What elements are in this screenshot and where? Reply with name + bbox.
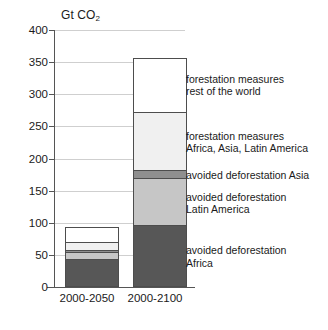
x-tick-label-1: 2000-2100 [104, 292, 206, 304]
bar-segment-avoided-deforestation-africa[interactable] [134, 226, 186, 287]
annotation-line-1: avoided deforestation [186, 191, 286, 204]
annotation-line-1: forestation measures [186, 73, 284, 86]
y-tick-label-150: 150 [0, 185, 55, 197]
annotation-line-2: Africa [186, 257, 286, 270]
bar-segment-avoided-deforestation-asia[interactable] [134, 171, 186, 179]
y-tick-label-300: 300 [0, 88, 55, 100]
y-tick-label-100: 100 [0, 217, 55, 229]
annotation-line-2: rest of the world [186, 85, 284, 98]
x-axis-line [47, 287, 195, 288]
y-tick-label-350: 350 [0, 56, 55, 68]
y-tick-mark-0 [49, 287, 55, 288]
annotation-avoided-deforestation-asia: avoided deforestation Asia [186, 169, 309, 182]
bar-segment-avoided-deforestation-latin-america[interactable] [134, 179, 186, 225]
y-tick-label-400: 400 [0, 24, 55, 36]
bar-segment-forestation-measures-rest-of-the-world[interactable] [66, 228, 118, 243]
bar-segment-avoided-deforestation-latin-america[interactable] [66, 253, 118, 260]
annotation-line-2: Latin America [186, 203, 286, 216]
bar-segment-forestation-measures-rest-of-the-world[interactable] [134, 59, 186, 113]
annotation-avoided-deforestation-africa: avoided deforestationAfrica [186, 244, 286, 269]
bar-segment-forestation-measures-africa-asia-latin-america[interactable] [66, 243, 118, 250]
annotation-forestation-measures-rest-of-the-world: forestation measuresrest of the world [186, 73, 284, 98]
y-tick-label-50: 50 [0, 249, 55, 261]
chart-container: Gt CO2 050100150200250300350400 2000-205… [0, 0, 328, 330]
y-tick-label-200: 200 [0, 153, 55, 165]
annotation-line-2: Africa, Asia, Latin America [186, 142, 308, 155]
plot-area [55, 30, 185, 287]
bar-2000-2050[interactable] [65, 227, 119, 287]
annotation-line-1: forestation measures [186, 130, 308, 143]
annotation-avoided-deforestation-latin-america: avoided deforestationLatin America [186, 191, 286, 216]
y-tick-label-250: 250 [0, 120, 55, 132]
annotation-line-1: avoided deforestation [186, 244, 286, 257]
bar-2000-2100[interactable] [133, 58, 187, 287]
y-axis-title-text: Gt CO [61, 8, 96, 22]
y-axis-title: Gt CO2 [61, 8, 100, 22]
annotation-forestation-measures-africa-asia-latin-america: forestation measuresAfrica, Asia, Latin … [186, 130, 308, 155]
y-axis-title-subscript: 2 [96, 14, 101, 23]
bar-segment-avoided-deforestation-africa[interactable] [66, 260, 118, 286]
annotation-line-1: avoided deforestation Asia [186, 169, 309, 182]
bar-segment-forestation-measures-africa-asia-latin-america[interactable] [134, 113, 186, 172]
